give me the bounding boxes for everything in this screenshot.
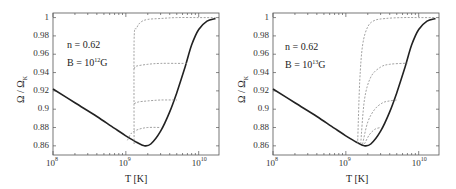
y-tick-label: 0.88 — [229, 122, 269, 132]
annotation-b: B = 1012G — [67, 56, 108, 69]
y-tick-label: 0.88 — [9, 122, 49, 132]
evolution-track-curve — [134, 63, 187, 69]
y-tick-label: 0.9 — [9, 103, 49, 113]
plot-frame — [273, 13, 439, 155]
y-tick-label: 0.94 — [229, 67, 269, 77]
x-tick-label: 108 — [46, 158, 58, 168]
y-tick-label: 0.86 — [229, 140, 269, 150]
chart-panel-right: n = 0.62 B = 1013G Ω / ΩK T [K] 10.980.9… — [228, 0, 456, 189]
x-tick-label: 109 — [119, 158, 131, 168]
evolution-track-curve — [134, 18, 216, 144]
y-tick-label: 0.92 — [9, 85, 49, 95]
x-tick-label: 108 — [266, 158, 278, 168]
annotation-n: n = 0.62 — [285, 40, 318, 53]
y-tick-label: 0.86 — [9, 140, 49, 150]
evolution-track-curve — [361, 63, 408, 144]
chart-panel-left: n = 0.62 B = 1012G Ω / ΩK T [K] 10.980.9… — [0, 0, 228, 189]
y-tick-label: 0.9 — [229, 103, 269, 113]
x-tick-label: 109 — [339, 158, 351, 168]
x-axis-label: T [K] — [125, 173, 147, 184]
evolution-track-curve — [134, 100, 177, 104]
plot-frame — [53, 13, 219, 155]
x-tick-label: 1010 — [412, 158, 427, 168]
y-tick-label: 0.94 — [9, 67, 49, 77]
y-tick-label: 0.98 — [9, 30, 49, 40]
x-tick-label: 1010 — [192, 158, 207, 168]
y-tick-label: 1 — [229, 12, 269, 22]
y-tick-label: 0.96 — [229, 48, 269, 58]
y-tick-label: 0.96 — [9, 48, 49, 58]
x-axis-label: T [K] — [346, 173, 368, 184]
y-tick-label: 0.98 — [229, 30, 269, 40]
equilibrium-curve — [273, 19, 436, 147]
annotation-b: B = 1013G — [285, 58, 326, 71]
y-tick-label: 0.92 — [229, 85, 269, 95]
annotation-n: n = 0.62 — [67, 38, 100, 51]
y-tick-label: 1 — [9, 12, 49, 22]
